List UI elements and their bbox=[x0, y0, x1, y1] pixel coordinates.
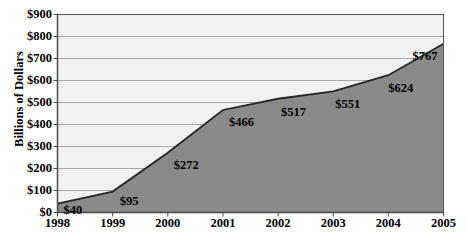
data-point-label: $624 bbox=[388, 81, 414, 95]
data-point-label: $272 bbox=[174, 158, 199, 172]
x-axis-tick-label: 2000 bbox=[142, 216, 194, 231]
x-axis-tick-labels: 19981999200020012002200320042005 bbox=[0, 216, 467, 238]
x-axis-tick-label: 2005 bbox=[418, 216, 467, 231]
area-chart: Billions of Dollars $0$100$200$300$400$5… bbox=[0, 0, 467, 241]
data-point-label: $551 bbox=[335, 97, 360, 111]
data-point-label: $466 bbox=[229, 115, 254, 129]
x-axis-tick-label: 1998 bbox=[32, 216, 84, 231]
plot-area: $40$95$272$466$517$551$624$767 bbox=[0, 0, 467, 241]
x-axis-tick-label: 2002 bbox=[252, 216, 304, 231]
data-point-label: $517 bbox=[281, 105, 306, 119]
data-point-label: $95 bbox=[120, 194, 139, 208]
x-axis-tick-label: 2001 bbox=[197, 216, 249, 231]
data-point-label: $40 bbox=[64, 203, 83, 217]
x-axis-tick-label: 2003 bbox=[307, 216, 359, 231]
data-point-label: $767 bbox=[413, 49, 438, 63]
x-axis-tick-label: 2004 bbox=[362, 216, 414, 231]
x-axis-tick-label: 1999 bbox=[87, 216, 139, 231]
